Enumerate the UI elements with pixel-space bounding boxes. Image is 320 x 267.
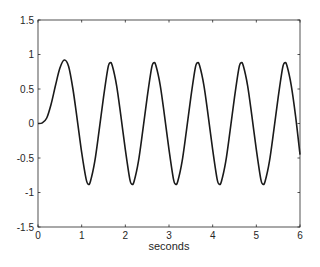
y-tick-label: -1.5 — [17, 222, 35, 233]
x-tick-label: 0 — [35, 230, 41, 241]
plot-area — [38, 20, 300, 227]
y-tick-label: -1 — [25, 187, 34, 198]
y-tick-label: -0.5 — [17, 153, 35, 164]
y-tick-label: 0 — [28, 118, 34, 129]
y-tick-label: 1 — [28, 49, 34, 60]
x-axis-label: seconds — [149, 240, 190, 252]
line-chart: 0123456 1.510.50-0.5-1-1.5 seconds — [0, 0, 320, 267]
x-tick-label: 5 — [254, 230, 260, 241]
x-tick-label: 4 — [210, 230, 216, 241]
x-tick-label: 1 — [79, 230, 85, 241]
x-tick-label: 6 — [297, 230, 303, 241]
x-tick-label: 2 — [123, 230, 129, 241]
y-tick-label: 0.5 — [20, 84, 34, 95]
y-tick-label: 1.5 — [20, 15, 34, 26]
